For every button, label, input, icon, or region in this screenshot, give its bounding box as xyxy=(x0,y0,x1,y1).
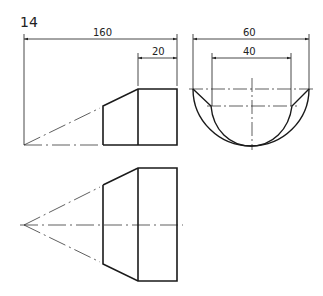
technical-drawing: 14 160 20 60 40 xyxy=(0,0,323,296)
dimension-20-label: 20 xyxy=(152,47,165,57)
top-view xyxy=(20,168,183,281)
inner-curve xyxy=(193,89,309,146)
dimension-40-label: 40 xyxy=(243,47,256,57)
phantom-lower xyxy=(24,225,100,262)
outer-arc xyxy=(193,89,309,146)
phantom-upper xyxy=(24,187,100,225)
phantom-slant xyxy=(24,108,100,145)
dimension-160-label: 160 xyxy=(93,28,112,38)
front-outline xyxy=(103,89,177,145)
figure-number: 14 xyxy=(20,15,38,29)
drawing-svg xyxy=(0,0,323,296)
dimension-60-label: 60 xyxy=(243,28,256,38)
top-outline xyxy=(103,168,177,281)
